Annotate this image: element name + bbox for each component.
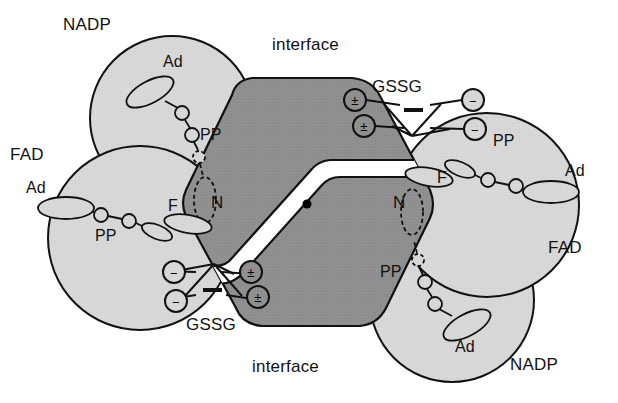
label-n-right: N — [393, 193, 405, 212]
minus-glyph: − — [172, 295, 180, 310]
label-interface-top: interface — [272, 35, 339, 54]
pyrophosphate-bead — [185, 128, 199, 142]
pyrophosphate-bead — [418, 275, 432, 289]
minus-glyph: − — [170, 266, 178, 281]
adenine-ellipse — [523, 181, 579, 203]
adenine-ellipse — [38, 197, 94, 219]
minus-glyph: − — [469, 94, 477, 109]
plus-minus-glyph: ± — [351, 93, 358, 108]
pyrophosphate-bead — [122, 214, 136, 228]
ribose-bead — [509, 179, 523, 193]
label-f-fad-right: F — [437, 169, 447, 186]
label-nadp-top: NADP — [63, 15, 111, 34]
nicotinamide-ribose-bead — [412, 254, 424, 266]
pyrophosphate-bead — [481, 173, 495, 187]
plus-minus-glyph: ± — [247, 265, 254, 280]
ribose-bead — [175, 106, 189, 120]
minus-glyph: − — [471, 123, 479, 138]
ribose-bead — [94, 208, 108, 222]
label-pp-fad-right: PP — [493, 132, 515, 149]
label-gssg-top: GSSG — [372, 77, 422, 96]
figure-canvas: ± ± − − ± ± − − NADP FAD interface GSSG … — [0, 0, 618, 403]
dyad-axis-dot — [303, 200, 312, 209]
ribose-bead — [428, 297, 442, 311]
label-n-left: N — [211, 193, 223, 212]
label-ad-nadp-bottom: Ad — [455, 338, 475, 355]
nicotinamide-ribose-bead — [193, 151, 205, 163]
label-pp-nadp-bottom: PP — [380, 263, 402, 280]
label-pp-fad-left: PP — [95, 227, 117, 244]
glutathione-reductase-dimer-diagram: ± ± − − ± ± − − NADP FAD interface GSSG … — [0, 0, 618, 403]
label-fad-left: FAD — [10, 145, 44, 164]
label-ad-fad-left: Ad — [26, 179, 46, 196]
label-ad-nadp-top: Ad — [163, 53, 183, 70]
label-ad-fad-right: Ad — [565, 162, 585, 179]
label-fad-right: FAD — [548, 238, 582, 257]
label-gssg-bottom: GSSG — [186, 315, 236, 334]
label-f-fad-left: F — [168, 197, 178, 214]
plus-minus-glyph: ± — [254, 290, 261, 305]
label-nadp-bottom: NADP — [510, 355, 558, 374]
label-interface-bottom: interface — [252, 357, 319, 376]
plus-minus-glyph: ± — [360, 119, 367, 134]
label-pp-nadp-top: PP — [200, 126, 222, 143]
